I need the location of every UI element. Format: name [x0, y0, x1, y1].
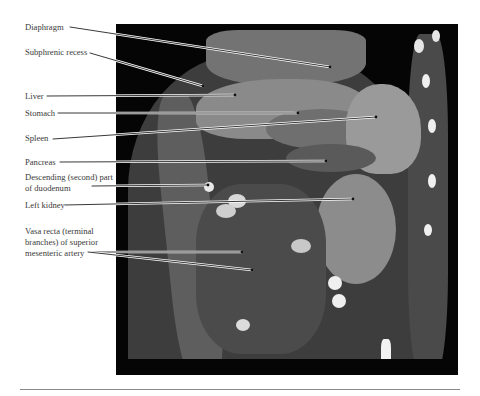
ct-scan-image — [116, 24, 458, 375]
rib — [432, 30, 440, 42]
label-liver: Liver — [25, 91, 44, 102]
rib — [414, 39, 424, 53]
label-subphrenic-recess: Subphrenic recess — [25, 47, 87, 58]
label-diaphragm: Diaphragm — [25, 22, 64, 33]
contrast-spot — [332, 294, 346, 308]
contrast-spot — [291, 239, 311, 253]
contrast-spot — [216, 204, 236, 218]
rib — [424, 224, 432, 236]
pancreas — [286, 144, 376, 172]
heart — [206, 30, 366, 85]
bottom-separator — [20, 389, 460, 390]
contrast-spot — [236, 319, 250, 331]
contrast-spot — [328, 276, 342, 290]
label-stomach: Stomach — [25, 108, 55, 119]
label-pancreas: Pancreas — [25, 157, 56, 168]
rib — [422, 74, 430, 88]
rib — [428, 119, 436, 133]
rib — [428, 174, 436, 188]
contrast-spot — [204, 182, 214, 192]
label-spleen: Spleen — [25, 133, 48, 144]
left-kidney — [316, 174, 396, 284]
label-duodenum: Descending (second) part of duodenum — [25, 172, 115, 194]
image-bottom-margin — [116, 359, 458, 375]
label-left-kidney: Left kidney — [25, 200, 65, 211]
label-vasa-recta: Vasa recta (terminal branches) of superi… — [25, 226, 117, 259]
